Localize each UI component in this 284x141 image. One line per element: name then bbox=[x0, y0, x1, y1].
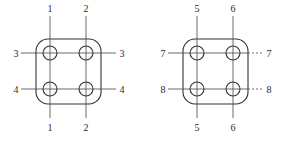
label-top-right: 2 bbox=[84, 3, 89, 14]
label-left-lower: 8 bbox=[161, 84, 166, 95]
figure-left: 1 2 1 2 3 3 4 4 bbox=[14, 3, 125, 133]
diagram-canvas: 1 2 1 2 3 3 4 4 5 6 5 6 7 7 8 8 bbox=[0, 0, 284, 141]
label-top-left: 5 bbox=[195, 3, 200, 14]
label-right-lower: 8 bbox=[267, 84, 272, 95]
label-bottom-left: 1 bbox=[48, 122, 53, 133]
figure-right: 5 6 5 6 7 7 8 8 bbox=[161, 3, 272, 133]
label-bottom-right: 2 bbox=[84, 122, 89, 133]
label-right-lower: 4 bbox=[120, 84, 125, 95]
label-left-lower: 4 bbox=[14, 84, 19, 95]
label-right-upper: 3 bbox=[120, 48, 125, 59]
label-left-upper: 7 bbox=[161, 48, 166, 59]
label-top-right: 6 bbox=[231, 3, 236, 14]
label-left-upper: 3 bbox=[14, 48, 19, 59]
label-bottom-right: 6 bbox=[231, 122, 236, 133]
label-top-left: 1 bbox=[48, 3, 53, 14]
label-bottom-left: 5 bbox=[195, 122, 200, 133]
label-right-upper: 7 bbox=[267, 48, 272, 59]
